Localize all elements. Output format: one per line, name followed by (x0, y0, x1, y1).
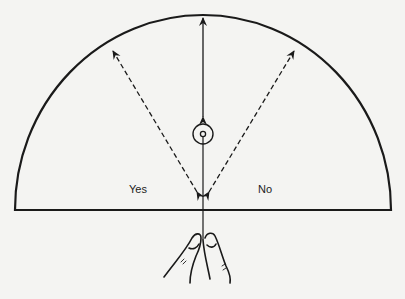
hand-fingers-icon (164, 233, 230, 283)
pendulum-diagram (0, 0, 405, 299)
yes-label: Yes (129, 183, 147, 195)
dashed-arrow-no (209, 51, 294, 192)
no-label: No (258, 183, 272, 195)
dashed-arrow-yes (113, 51, 197, 192)
